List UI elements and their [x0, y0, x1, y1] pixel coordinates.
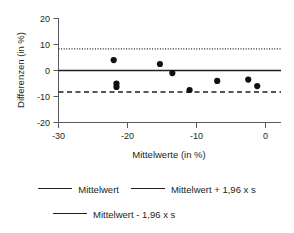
legend-label-lower-limit: Mittelwert - 1,96 x s [93, 209, 175, 220]
data-point [214, 78, 220, 84]
y-axis-title: Differenzen (in %) [15, 32, 26, 108]
x-tick-label-minus20: -20 [121, 131, 134, 141]
legend-swatch-dotted-line-icon [131, 184, 165, 194]
y-tick-label-0: 0 [45, 66, 50, 76]
data-point [187, 87, 193, 93]
legend-item-upper-limit: Mittelwert + 1,96 x s [131, 184, 256, 195]
legend-swatch-dashed-line-icon [53, 209, 87, 219]
reference-lines [59, 49, 282, 92]
y-axis-ticks [54, 19, 59, 123]
data-point [111, 57, 117, 63]
legend-row-1: Mittelwert Mittelwert + 1,96 x s [0, 176, 294, 202]
legend-label-upper-limit: Mittelwert + 1,96 x s [171, 184, 256, 195]
plot-area: 20 10 0 -10 -20 -30 -20 -10 0 Mittelwert… [0, 0, 294, 175]
y-tick-label-10: 10 [40, 40, 50, 50]
x-tick-label-minus10: -10 [190, 131, 203, 141]
plot-svg: 20 10 0 -10 -20 -30 -20 -10 0 Mittelwert… [0, 0, 294, 175]
data-point [245, 77, 251, 83]
data-point [113, 84, 119, 90]
data-points [111, 57, 261, 93]
legend-row-2: Mittelwert - 1,96 x s [0, 202, 294, 226]
legend-swatch-solid-line-icon [38, 184, 72, 194]
x-tick-label-0: 0 [263, 131, 268, 141]
legend-label-mittelwert: Mittelwert [78, 184, 119, 195]
bland-altman-chart: 20 10 0 -10 -20 -30 -20 -10 0 Mittelwert… [0, 0, 294, 233]
y-tick-label-minus20: -20 [37, 118, 50, 128]
x-tick-label-minus30: -30 [52, 131, 65, 141]
data-point [169, 70, 175, 76]
data-point [254, 83, 260, 89]
legend-item-lower-limit: Mittelwert - 1,96 x s [53, 209, 175, 220]
y-tick-label-minus10: -10 [37, 92, 50, 102]
chart-legend: Mittelwert Mittelwert + 1,96 x s Mittelw… [0, 176, 294, 233]
legend-item-mittelwert: Mittelwert [38, 184, 119, 195]
data-point [157, 61, 163, 67]
x-axis-title: Mittelwerte (in %) [132, 149, 205, 160]
y-tick-label-20: 20 [40, 14, 50, 24]
x-axis-ticks [59, 123, 266, 129]
